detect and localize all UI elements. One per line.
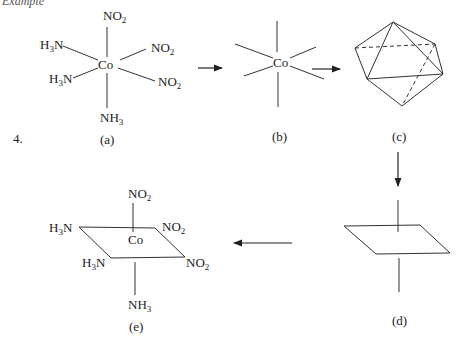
panel-e-ligand-back-left: H3N — [49, 220, 73, 237]
panel-e-label: (e) — [129, 319, 143, 334]
panel-a-label: (a) — [100, 132, 114, 147]
panel-e-ligand-bottom: NH3 — [128, 297, 152, 314]
panel-e-ligand-front-right: NO2 — [186, 255, 209, 272]
panel-c-octahedron — [355, 22, 443, 106]
panel-d-square-plane — [344, 200, 450, 292]
panel-e-ligand-front-left: H3N — [82, 255, 106, 272]
panel-e-center: Co — [128, 232, 143, 247]
octahedral-complex-diagram: 4. Co NO2 H3N NO2 H3N NO2 NH3 (a) Co (b) — [0, 0, 461, 348]
panel-a-ligand-lower-right: NO2 — [158, 74, 181, 91]
panel-a-ligand-upper-left: H3N — [40, 37, 64, 54]
panel-a-center: Co — [98, 57, 113, 72]
panel-a-ligand-top: NO2 — [103, 8, 126, 25]
panel-a-ligand-lower-left: H3N — [49, 71, 73, 88]
panel-a-ligand-bottom: NH3 — [100, 110, 124, 127]
panel-a-ligand-upper-right: NO2 — [151, 40, 174, 57]
panel-e-ligand-top: NO2 — [128, 186, 151, 203]
panel-b-center: Co — [273, 55, 288, 70]
panel-c-label: (c) — [392, 129, 406, 144]
panel-e-ligand-back-right: NO2 — [162, 219, 185, 236]
panel-b-label: (b) — [272, 129, 287, 144]
panel-d-label: (d) — [392, 313, 407, 328]
problem-number: 4. — [13, 131, 23, 146]
panel-e — [79, 203, 185, 295]
